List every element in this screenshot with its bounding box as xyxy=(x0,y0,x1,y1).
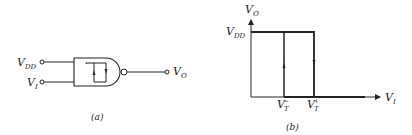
vt-plus-label: V+T xyxy=(307,97,320,113)
input-vi-terminal xyxy=(40,80,44,84)
vdd-level-label: VDD xyxy=(226,25,246,40)
y-axis-label: VO xyxy=(245,3,259,18)
up-arrow-icon xyxy=(283,63,286,68)
panel-a: VDD VI VO (a) xyxy=(17,56,187,122)
inversion-bubble xyxy=(121,69,127,75)
input-vdd-terminal xyxy=(40,60,44,64)
output-vo-label: VO xyxy=(173,65,187,80)
input-vi-label: VI xyxy=(27,76,38,91)
diagram-canvas: VDD VI VO (a) VO VI VDD xyxy=(0,0,412,135)
input-vdd-label: VDD xyxy=(17,56,37,71)
x-axis-label: VI xyxy=(385,91,396,106)
output-terminal xyxy=(165,70,169,74)
panel-b-caption: (b) xyxy=(286,122,299,132)
vt-minus-label: V−T xyxy=(277,97,290,113)
down-arrow-icon xyxy=(313,60,316,65)
panel-a-caption: (a) xyxy=(91,112,104,122)
panel-b: VO VI VDD V−T V+T (b) xyxy=(226,3,396,132)
high-output-path xyxy=(251,32,314,97)
